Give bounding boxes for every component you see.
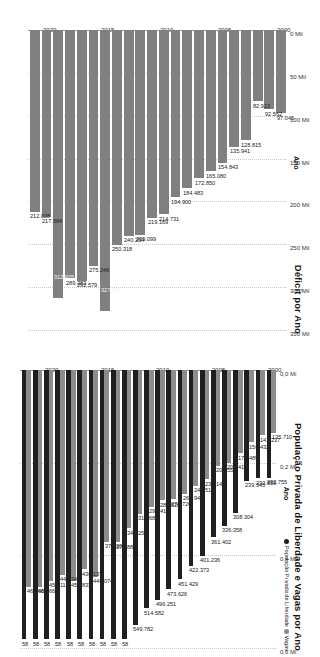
bar[interactable]	[238, 370, 243, 453]
bar[interactable]	[30, 30, 40, 212]
bar[interactable]	[135, 30, 145, 235]
bar[interactable]	[149, 370, 154, 507]
bar-group[interactable]: 295.413514.582	[144, 370, 153, 648]
bar[interactable]	[166, 370, 171, 589]
bar-group[interactable]: 179.489308.304	[233, 370, 242, 648]
bar[interactable]	[200, 370, 205, 556]
bar-group[interactable]: 214.731	[159, 30, 169, 330]
bar-group[interactable]: 249.515422.373	[189, 370, 198, 648]
bar[interactable]	[253, 30, 263, 101]
bar[interactable]	[33, 370, 38, 639]
bar[interactable]	[249, 370, 254, 442]
bar[interactable]	[66, 370, 71, 639]
bar[interactable]	[171, 370, 176, 499]
bar[interactable]	[133, 370, 138, 625]
bar[interactable]	[264, 30, 274, 109]
bar-group[interactable]: 467.66958	[33, 370, 42, 648]
bar[interactable]	[155, 370, 160, 600]
bar-group[interactable]: 312.925	[53, 30, 63, 330]
bar[interactable]	[271, 370, 276, 433]
bar[interactable]	[22, 370, 27, 639]
bar[interactable]	[89, 370, 94, 639]
bar[interactable]	[182, 30, 192, 188]
bar[interactable]	[44, 370, 49, 639]
bar-group[interactable]: 467.66958	[22, 370, 31, 648]
bar[interactable]	[227, 370, 232, 463]
bar[interactable]	[216, 370, 221, 466]
bar[interactable]	[116, 370, 121, 542]
bar-group[interactable]: 236.148401.236	[200, 370, 209, 648]
bar[interactable]	[93, 370, 98, 577]
bar[interactable]	[89, 30, 99, 266]
bar-group[interactable]: 327.417	[100, 30, 110, 330]
bar-group[interactable]: 194.900	[171, 30, 181, 330]
bar-group[interactable]: 371.20158	[100, 370, 109, 648]
bar[interactable]	[178, 370, 183, 579]
bar[interactable]	[211, 370, 216, 537]
bar-group[interactable]: 128.815	[241, 30, 251, 330]
bar-group[interactable]: 154.843	[218, 30, 228, 330]
bar[interactable]	[60, 370, 65, 575]
bar[interactable]	[112, 30, 122, 245]
bar[interactable]	[111, 370, 116, 639]
bar[interactable]	[53, 30, 63, 298]
bar[interactable]	[276, 30, 286, 113]
bar-group[interactable]: 442.34958	[55, 370, 64, 648]
bar-group[interactable]: 212.008	[30, 30, 40, 330]
bar[interactable]	[147, 30, 157, 218]
bar[interactable]	[104, 370, 109, 542]
bar[interactable]	[65, 30, 75, 278]
bar[interactable]	[218, 30, 228, 163]
bar[interactable]	[182, 370, 187, 494]
bar-group[interactable]: 454.83358	[66, 370, 75, 648]
bar-group[interactable]: 266.946451.429	[178, 370, 187, 648]
bar[interactable]	[205, 370, 210, 479]
bar[interactable]	[267, 370, 272, 478]
bar[interactable]	[71, 370, 76, 581]
bar-group[interactable]: 240.254	[124, 30, 134, 330]
bar[interactable]	[229, 30, 239, 147]
bar[interactable]	[55, 370, 60, 639]
bar[interactable]	[122, 370, 127, 639]
bar[interactable]	[49, 370, 54, 581]
bar-group[interactable]: 172.850	[194, 30, 204, 330]
bar[interactable]	[77, 370, 82, 639]
bar-group[interactable]: 371.88458	[111, 370, 120, 648]
bar[interactable]	[144, 370, 149, 608]
bar[interactable]	[138, 370, 143, 514]
bar[interactable]	[241, 30, 251, 140]
bar[interactable]	[127, 370, 132, 528]
bar[interactable]	[256, 370, 261, 478]
bar-group[interactable]: 82.913	[253, 30, 263, 330]
bar-group[interactable]: 92.562	[264, 30, 274, 330]
bar-group[interactable]: 135.941	[229, 30, 239, 330]
bar-group[interactable]: 156.432239.345	[244, 370, 253, 648]
bar-group[interactable]: 250.318	[112, 30, 122, 330]
bar-group[interactable]: 239.099	[135, 30, 145, 330]
bar[interactable]	[124, 30, 134, 236]
bar[interactable]	[194, 30, 204, 178]
bar[interactable]	[171, 30, 181, 197]
bar-group[interactable]: 219.169	[147, 30, 157, 330]
bar[interactable]	[100, 370, 105, 639]
bar[interactable]	[206, 30, 216, 171]
bar[interactable]	[82, 370, 87, 569]
bar-group[interactable]: 341.25358	[122, 370, 131, 648]
bar-group[interactable]: 455.11358	[44, 370, 53, 648]
bar[interactable]	[233, 370, 238, 513]
bar[interactable]	[193, 370, 198, 486]
bar[interactable]	[160, 370, 165, 500]
bar[interactable]	[189, 370, 194, 566]
bar-group[interactable]: 184.483	[182, 30, 192, 330]
bar-group[interactable]: 289.383	[65, 30, 75, 330]
bar-group[interactable]: 217.584	[42, 30, 52, 330]
bar-group[interactable]: 446.07458	[89, 370, 98, 648]
bar-group[interactable]: 135.710232.755	[267, 370, 276, 648]
bar[interactable]	[222, 370, 227, 526]
bar[interactable]	[260, 370, 265, 435]
bar-group[interactable]: 430.13758	[77, 370, 86, 648]
bar-group[interactable]: 141.237233.859	[256, 370, 265, 648]
bar[interactable]	[159, 30, 169, 214]
bar-group[interactable]: 97.045	[276, 30, 286, 330]
bar-group[interactable]: 310.687549.782	[133, 370, 142, 648]
